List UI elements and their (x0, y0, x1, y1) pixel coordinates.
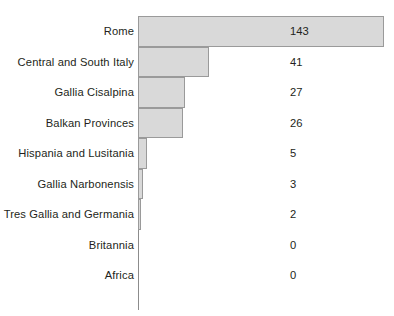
bar-row: Hispania and Lusitania 5 (0, 138, 394, 169)
bar-rows: Rome 143 Central and South Italy 41 Gall… (0, 16, 394, 291)
category-label: Tres Gallia and Germania (4, 199, 134, 230)
category-label: Gallia Cisalpina (54, 77, 134, 108)
bar-value-label: 3 (290, 169, 296, 200)
category-label: Hispania and Lusitania (18, 138, 134, 169)
category-label: Gallia Narbonensis (37, 169, 134, 200)
bar-rect[interactable] (138, 138, 147, 169)
bar-value-label: 41 (290, 47, 302, 78)
category-label: Africa (105, 260, 134, 291)
bar-rect[interactable] (138, 199, 141, 230)
bar-rect[interactable] (138, 77, 185, 108)
bar-value-label: 143 (290, 16, 309, 47)
bar-rect[interactable] (138, 169, 143, 200)
category-label: Rome (104, 16, 134, 47)
bar-row: Africa 0 (0, 260, 394, 291)
bar-rect[interactable] (138, 16, 384, 47)
bar-row: Tres Gallia and Germania 2 (0, 199, 394, 230)
bar-value-label: 2 (290, 199, 296, 230)
bar-value-label: 26 (290, 108, 302, 139)
bar-row: Gallia Narbonensis 3 (0, 169, 394, 200)
bar-row: Central and South Italy 41 (0, 47, 394, 78)
category-label: Britannia (89, 230, 134, 261)
bar-value-label: 0 (290, 260, 296, 291)
horizontal-bar-chart: Rome 143 Central and South Italy 41 Gall… (0, 0, 394, 316)
category-label: Central and South Italy (18, 47, 134, 78)
bar-rect[interactable] (138, 47, 209, 78)
bar-row: Rome 143 (0, 16, 394, 47)
bar-value-label: 27 (290, 77, 302, 108)
bar-row: Gallia Cisalpina 27 (0, 77, 394, 108)
bar-row: Britannia 0 (0, 230, 394, 261)
bar-row: Balkan Provinces 26 (0, 108, 394, 139)
category-label: Balkan Provinces (46, 108, 134, 139)
bar-value-label: 5 (290, 138, 296, 169)
bar-value-label: 0 (290, 230, 296, 261)
bar-rect[interactable] (138, 108, 183, 139)
